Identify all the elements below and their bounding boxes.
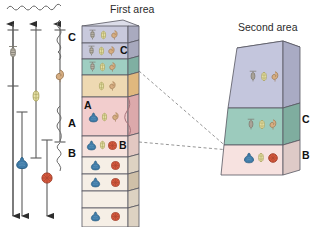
column-layer-10 xyxy=(82,205,139,227)
sa-layer-c-side xyxy=(283,103,300,145)
first-area-title: First area xyxy=(110,4,154,15)
ammonite-yellow-icon xyxy=(260,120,265,128)
second-area-layer-label-b: B xyxy=(302,150,310,161)
ammonite-yellow-icon xyxy=(100,141,104,149)
ammonite-yellow-icon xyxy=(33,91,39,101)
diagram-canvas: First area Second area C A B C A B C B xyxy=(0,0,315,227)
ammonite-yellow-icon xyxy=(259,153,264,161)
ammonite-yellow-icon xyxy=(99,47,103,55)
zone-label-b: B xyxy=(68,148,76,159)
first-area-layer-label-a: A xyxy=(84,100,92,111)
column-layer-6 xyxy=(82,133,139,157)
brachiopod-red-icon xyxy=(269,154,278,163)
range-bar-trilobite xyxy=(8,24,19,216)
ammonite-yellow-icon xyxy=(99,82,103,90)
corr-line-lower xyxy=(139,142,229,150)
ammonite-yellow-icon xyxy=(262,72,267,80)
biostratigraphy-figure xyxy=(0,0,315,227)
sa-layer-b-side xyxy=(283,140,300,175)
range-chart xyxy=(7,4,66,216)
zone-label-a: A xyxy=(68,118,76,129)
range-bar-ammonite-yellow xyxy=(31,24,42,158)
correlation-lines xyxy=(139,71,229,150)
range-bar-brachiopod-red xyxy=(42,140,53,216)
first-area-layer-label-b: B xyxy=(119,140,127,151)
first-area-layer-label-c: C xyxy=(120,45,128,56)
column-layer-1 xyxy=(82,20,139,43)
brachiopod-red-icon xyxy=(111,212,119,220)
ammonite-yellow-icon xyxy=(101,31,105,39)
second-area-title: Second area xyxy=(238,22,298,33)
sa-layer-top-side xyxy=(283,41,300,108)
second-area-layer-label-c: C xyxy=(302,114,310,125)
range-bar-bivalve-blue xyxy=(17,112,28,216)
first-area-column xyxy=(82,20,139,227)
brachiopod-red-icon xyxy=(111,178,119,186)
brachiopod-red-icon xyxy=(108,141,116,149)
range-bar-gastropod-tan xyxy=(55,24,66,142)
column-layer-4 xyxy=(82,72,139,97)
zone-brace-b xyxy=(57,143,61,171)
column-layer-9 xyxy=(82,188,139,208)
column-layer-8 xyxy=(82,171,139,191)
zone-brace-a xyxy=(57,106,61,141)
ammonite-yellow-icon xyxy=(102,113,106,121)
bivalve-blue-icon xyxy=(17,157,28,168)
second-area-block xyxy=(221,41,300,175)
corr-line-upper xyxy=(139,71,229,149)
top-brace xyxy=(7,4,61,10)
column-layer-3 xyxy=(82,56,139,75)
brachiopod-red-icon xyxy=(111,161,119,169)
trilobite-icon xyxy=(9,47,17,60)
ammonite-yellow-icon xyxy=(100,63,104,71)
zone-label-c: C xyxy=(68,32,76,43)
column-layer-2 xyxy=(82,40,139,59)
column-layer-7 xyxy=(82,154,139,174)
brachiopod-red-icon xyxy=(42,173,52,183)
